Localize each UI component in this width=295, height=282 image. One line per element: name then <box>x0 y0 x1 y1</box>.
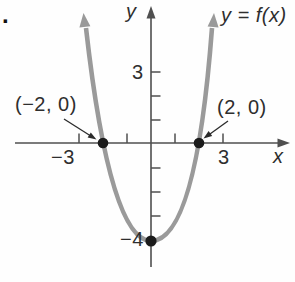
curve-equation-label: y = f(x) <box>221 5 287 25</box>
problem-number-period: . <box>2 3 9 27</box>
point-2-0 <box>194 138 205 149</box>
curve-arrow-left-icon <box>79 13 90 28</box>
point-vertex-0-neg4 <box>145 235 156 246</box>
point-label-neg2-0: (−2, 0) <box>15 94 77 114</box>
callout-arrow-left-icon <box>88 132 97 139</box>
y-axis-arrow-icon <box>147 6 156 19</box>
point-label-2-0: (2, 0) <box>217 97 267 117</box>
x-axis-title: x <box>273 146 284 166</box>
x-tick-label-3: 3 <box>218 147 230 167</box>
y-tick-label-neg4: −4 <box>120 229 144 249</box>
curve-arrow-right-icon <box>208 13 219 27</box>
figure-canvas: . y y = f(x) 3 (−2, 0) (2, 0) −3 3 x −4 <box>0 0 295 282</box>
y-axis-title: y <box>126 1 137 21</box>
graph-svg <box>0 0 295 282</box>
callout-line-left <box>64 119 90 136</box>
callout-line-right <box>210 121 228 134</box>
y-tick-label-3: 3 <box>132 62 144 82</box>
point-neg2-0 <box>98 138 109 149</box>
x-tick-label-neg3: −3 <box>51 147 75 167</box>
parabola-curve <box>86 28 212 241</box>
callout-arrow-right-icon <box>204 131 213 139</box>
